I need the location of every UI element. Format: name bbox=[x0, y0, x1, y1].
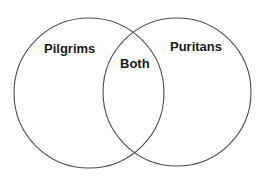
venn-label-left-set: Pilgrims bbox=[44, 41, 95, 56]
venn-diagram: Pilgrims Both Puritans bbox=[0, 0, 266, 181]
venn-label-right-set: Puritans bbox=[170, 39, 222, 54]
venn-label-intersection: Both bbox=[120, 56, 150, 71]
venn-diagram-canvas bbox=[0, 0, 266, 181]
